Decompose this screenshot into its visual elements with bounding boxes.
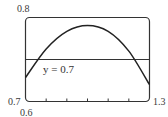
plot-area	[0, 0, 168, 117]
y-min-label: 0.6	[20, 108, 33, 117]
line-annotation: y = 0.7	[43, 64, 74, 74]
x-min-label: 0.7	[8, 97, 21, 107]
x-max-label: 1.3	[153, 97, 166, 107]
y-max-label: 0.8	[17, 4, 30, 14]
curve-series	[26, 25, 150, 84]
